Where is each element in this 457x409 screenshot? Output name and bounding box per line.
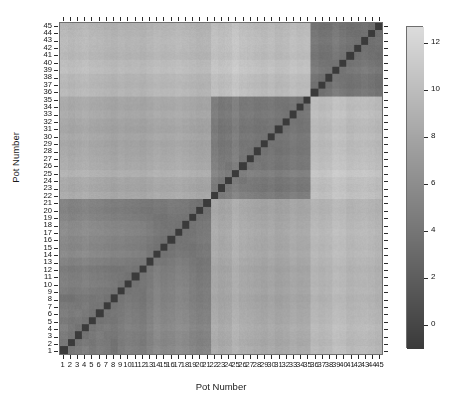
right-tick	[384, 152, 388, 153]
y-tick	[54, 137, 58, 138]
right-tick	[384, 344, 388, 345]
y-tick-label: 26	[25, 162, 52, 170]
top-tick	[135, 17, 136, 21]
x-tick	[63, 355, 64, 359]
x-tick	[106, 355, 107, 359]
right-tick	[384, 329, 388, 330]
y-tick-label: 31	[25, 125, 52, 133]
top-tick	[228, 17, 229, 21]
x-tick	[250, 355, 251, 359]
y-tick-label: 17	[25, 229, 52, 237]
x-tick	[178, 355, 179, 359]
right-tick	[384, 211, 388, 212]
right-tick	[384, 70, 388, 71]
top-tick	[163, 17, 164, 21]
x-tick-label: 45	[369, 361, 389, 369]
top-tick	[271, 17, 272, 21]
y-tick-label: 20	[25, 207, 52, 215]
y-tick-label: 24	[25, 177, 52, 185]
colorbar-tick	[424, 278, 428, 279]
y-tick-label: 37	[25, 81, 52, 89]
x-tick	[120, 355, 121, 359]
y-tick-label: 3	[25, 332, 52, 340]
y-tick	[54, 166, 58, 167]
y-tick	[54, 85, 58, 86]
x-tick	[171, 355, 172, 359]
x-tick	[192, 355, 193, 359]
x-tick	[372, 355, 373, 359]
y-tick	[54, 92, 58, 93]
right-tick	[384, 351, 388, 352]
top-tick	[343, 17, 344, 21]
y-tick-label: 30	[25, 133, 52, 141]
y-tick-label: 14	[25, 251, 52, 259]
y-tick-label: 41	[25, 51, 52, 59]
y-tick	[54, 174, 58, 175]
top-tick	[149, 17, 150, 21]
y-tick	[54, 100, 58, 101]
y-tick	[54, 203, 58, 204]
right-tick	[384, 92, 388, 93]
x-tick	[91, 355, 92, 359]
y-tick	[54, 300, 58, 301]
top-tick	[192, 17, 193, 21]
top-tick	[257, 17, 258, 21]
y-tick	[54, 240, 58, 241]
right-tick	[384, 166, 388, 167]
top-tick	[336, 17, 337, 21]
heatmap-figure: Pot Number 12345678910111213141516171819…	[0, 0, 457, 409]
right-tick	[384, 307, 388, 308]
right-tick	[384, 115, 388, 116]
top-tick	[307, 17, 308, 21]
x-tick	[379, 355, 380, 359]
colorbar-tick-label: 0	[431, 320, 435, 328]
y-tick	[54, 351, 58, 352]
right-tick	[384, 196, 388, 197]
colorbar-tick-label: 12	[431, 38, 440, 46]
top-tick	[207, 17, 208, 21]
y-tick-label: 35	[25, 96, 52, 104]
y-tick	[54, 196, 58, 197]
top-tick	[372, 17, 373, 21]
x-tick	[257, 355, 258, 359]
x-tick	[228, 355, 229, 359]
x-tick	[271, 355, 272, 359]
top-tick	[221, 17, 222, 21]
x-tick	[286, 355, 287, 359]
top-tick	[329, 17, 330, 21]
top-tick	[365, 17, 366, 21]
top-tick	[178, 17, 179, 21]
y-tick-label: 45	[25, 22, 52, 30]
top-tick	[286, 17, 287, 21]
y-tick	[54, 144, 58, 145]
y-tick	[54, 263, 58, 264]
x-tick	[70, 355, 71, 359]
right-tick	[384, 218, 388, 219]
y-tick-label: 44	[25, 29, 52, 37]
right-tick	[384, 100, 388, 101]
top-tick	[264, 17, 265, 21]
y-tick	[54, 181, 58, 182]
colorbar-tick	[424, 231, 428, 232]
right-tick	[384, 85, 388, 86]
top-tick	[300, 17, 301, 21]
right-tick	[384, 240, 388, 241]
y-tick-label: 38	[25, 73, 52, 81]
right-tick	[384, 26, 388, 27]
y-tick-label: 23	[25, 184, 52, 192]
y-tick	[54, 255, 58, 256]
right-tick	[384, 189, 388, 190]
x-tick	[127, 355, 128, 359]
y-tick-label: 36	[25, 88, 52, 96]
right-tick	[384, 292, 388, 293]
colorbar-tick-label: 10	[431, 85, 440, 93]
x-tick	[264, 355, 265, 359]
right-tick	[384, 48, 388, 49]
x-tick	[77, 355, 78, 359]
colorbar-tick-label: 6	[431, 179, 435, 187]
y-tick	[54, 218, 58, 219]
top-tick	[315, 17, 316, 21]
y-tick	[54, 63, 58, 64]
x-tick	[279, 355, 280, 359]
y-tick-label: 16	[25, 236, 52, 244]
